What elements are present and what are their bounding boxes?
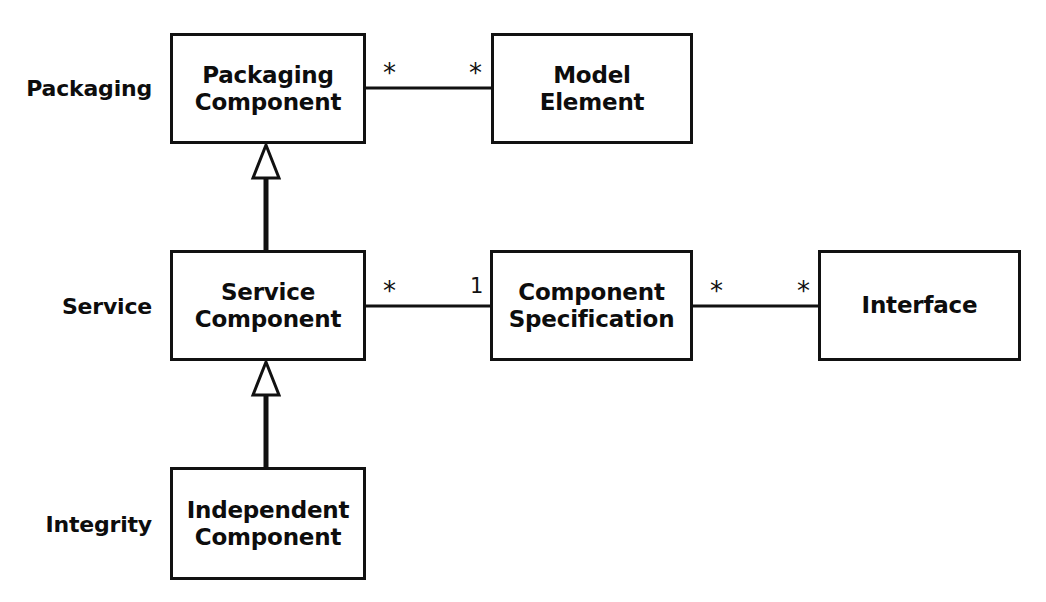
class-box-interface[interactable]: Interface — [818, 250, 1021, 361]
class-name-service-component: Service Component — [189, 279, 347, 332]
multiplicity-target-packaging-component--model-element: * — [469, 60, 482, 86]
class-name-independent-component: Independent Component — [181, 497, 356, 550]
class-name-component-specification: Component Specification — [503, 279, 681, 332]
class-name-packaging-component: Packaging Component — [189, 62, 347, 115]
class-box-service-component[interactable]: Service Component — [170, 250, 366, 361]
multiplicity-target-component-specification--interface: * — [797, 278, 810, 304]
layer-label-service: Service — [0, 294, 152, 319]
multiplicity-target-service-component--component-specification: 1 — [470, 276, 483, 297]
layer-label-integrity: Integrity — [0, 512, 152, 537]
uml-class-diagram: PackagingServiceIntegrity Packaging Comp… — [0, 0, 1046, 602]
class-box-component-specification[interactable]: Component Specification — [490, 250, 693, 361]
class-name-model-element: Model Element — [534, 62, 651, 115]
multiplicity-source-component-specification--interface: * — [710, 278, 723, 304]
generalization-arrowhead-icon-service-component--is-a--packaging-component — [253, 145, 279, 178]
multiplicity-source-service-component--component-specification: * — [383, 278, 396, 304]
class-name-interface: Interface — [856, 292, 984, 319]
class-box-independent-component[interactable]: Independent Component — [170, 467, 366, 580]
layer-label-packaging: Packaging — [0, 76, 152, 101]
multiplicity-source-packaging-component--model-element: * — [383, 60, 396, 86]
class-box-model-element[interactable]: Model Element — [491, 33, 693, 144]
class-box-packaging-component[interactable]: Packaging Component — [170, 33, 366, 144]
generalization-arrowhead-icon-independent-component--is-a--service-component — [253, 362, 279, 395]
